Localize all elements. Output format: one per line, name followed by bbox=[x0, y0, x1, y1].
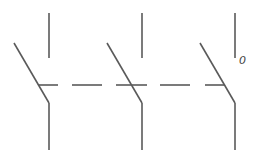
switch-diagram: 0 bbox=[0, 0, 259, 163]
pole-2-blade bbox=[107, 43, 142, 103]
pole-1-blade bbox=[14, 43, 49, 103]
pole-1 bbox=[14, 13, 49, 150]
pole-label: 0 bbox=[239, 54, 246, 67]
pole-2 bbox=[107, 13, 142, 150]
pole-3 bbox=[200, 13, 235, 150]
pole-3-blade bbox=[200, 43, 235, 103]
